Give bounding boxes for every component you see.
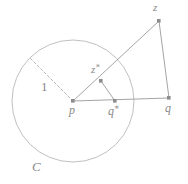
label-radius-one: 1 [41,80,48,93]
label-z-star-superscript: ∗ [95,61,100,70]
geometry-figure: z z∗ p q∗ q 1 C [0,0,188,184]
point-marker-q [167,96,171,100]
label-q-star: q∗ [108,104,120,117]
label-q: q [165,102,171,114]
segment-p-q [73,98,169,101]
label-z: z [153,2,157,13]
figure-canvas [0,0,188,184]
dashed-radius-line [30,58,73,101]
segment-p-z [73,21,159,101]
point-marker-z-star [99,79,103,83]
label-z-star: z∗ [91,62,101,75]
segment-zstar-qstar [101,81,115,101]
segment-z-q [159,21,169,98]
label-q-star-superscript: ∗ [114,103,120,112]
label-circle-c: C [32,160,41,173]
label-p: p [69,104,75,116]
point-marker-z [157,19,161,23]
